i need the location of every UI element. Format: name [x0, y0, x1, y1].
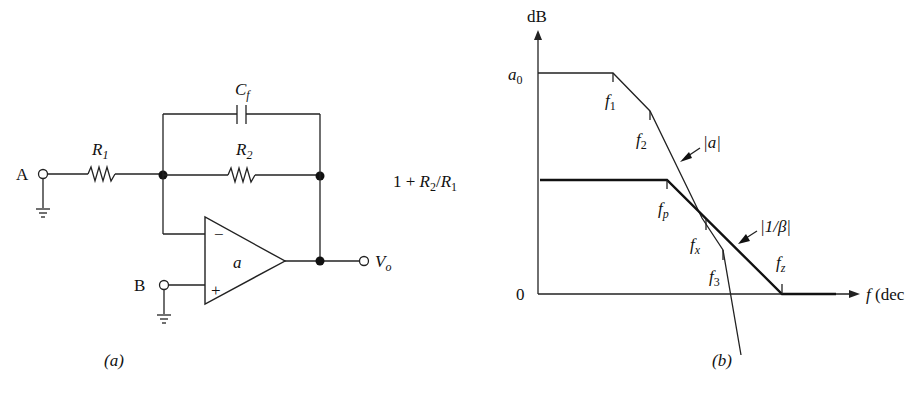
label-b: B: [134, 276, 145, 295]
node-output: [316, 257, 325, 266]
resistor-r2: [228, 168, 255, 182]
label-f1: f1: [605, 91, 616, 113]
label-fp: fp: [658, 199, 669, 221]
bode-plot: dB f (dec a0 1 + R2/R1 0 f1 f2 fp fx f3 …: [393, 7, 905, 370]
curve-open-loop-gain: [538, 73, 741, 355]
terminal-a: [39, 170, 48, 179]
y-axis-arrow-icon: [534, 30, 542, 40]
caption-b: (b): [712, 351, 732, 370]
x-axis-arrow-icon: [849, 290, 860, 298]
label-cf: Cf: [235, 80, 251, 102]
label-r2: R2: [235, 140, 252, 162]
curve-inverse-beta: [540, 180, 836, 294]
caption-a: (a): [104, 351, 124, 370]
arrow-icon-a: [680, 148, 700, 162]
terminal-b: [160, 281, 169, 290]
label-a: A: [16, 165, 29, 184]
ground-icon-b: [157, 315, 171, 323]
label-f3: f3: [709, 267, 720, 289]
x-axis-label: f (dec: [866, 285, 905, 304]
capacitor-cf: [237, 105, 246, 124]
label-curve-inv-beta: |1/β|: [760, 217, 791, 236]
terminal-vo: [360, 257, 369, 266]
figure-canvas: A R1 Cf R2 −: [0, 0, 923, 396]
label-minus: −: [214, 225, 224, 244]
label-opamp-gain: a: [233, 253, 242, 272]
ground-icon-a: [36, 209, 50, 217]
tick-a0: a0: [508, 65, 523, 87]
tick-closed-loop-gain: 1 + R2/R1: [393, 172, 457, 194]
tick-zero: 0: [516, 285, 525, 304]
y-axis-label: dB: [527, 7, 547, 26]
label-f2: f2: [636, 130, 647, 152]
label-fx: fx: [690, 235, 701, 257]
circuit-diagram: A R1 Cf R2 −: [16, 80, 391, 370]
resistor-r1: [88, 167, 115, 181]
label-fz: fz: [776, 253, 786, 275]
label-curve-a: |a|: [703, 133, 721, 152]
arrow-icon-inv-beta: [738, 231, 757, 244]
label-plus: +: [211, 281, 221, 300]
label-r1: R1: [91, 140, 108, 162]
label-vo: Vo: [375, 252, 391, 274]
